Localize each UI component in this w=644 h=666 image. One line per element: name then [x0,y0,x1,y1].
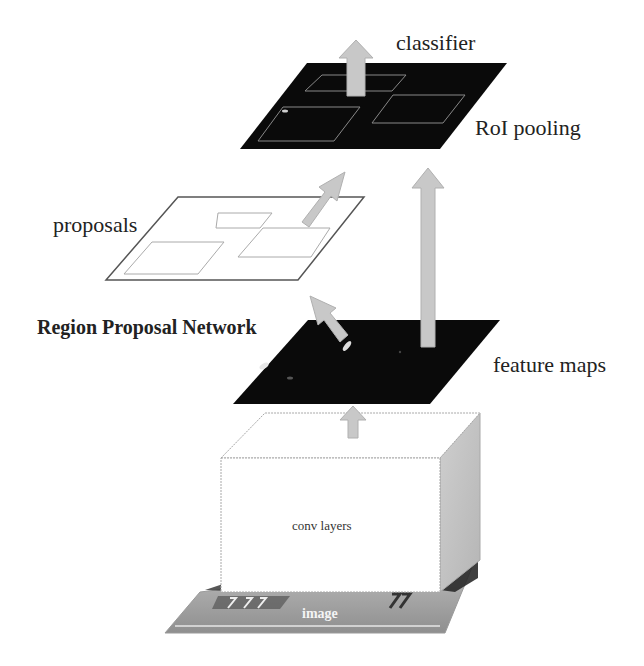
classifier-label: classifier [396,30,475,56]
proposals-plane [106,197,364,280]
proposals-label: proposals [53,212,137,238]
conv-layers-box [221,413,480,592]
feature-maps-plane [233,320,500,404]
conv-layers-label: conv layers [292,518,352,534]
roi-pooling-plane [240,63,507,149]
roi-pooling-label: RoI pooling [475,115,581,141]
image-label: image [302,606,338,622]
rpn-label: Region Proposal Network [37,316,257,339]
faster-rcnn-diagram: classifier RoI pooling proposals Region … [0,0,644,666]
feature-maps-label: feature maps [493,352,606,378]
